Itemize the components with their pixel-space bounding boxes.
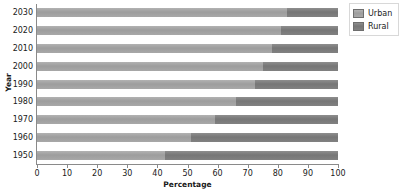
x-tick-label: 20 [85, 169, 109, 178]
y-tick-label: 1970 [3, 115, 33, 124]
x-tick-label: 0 [25, 169, 49, 178]
x-tick-mark [67, 165, 68, 168]
x-tick-label: 50 [176, 169, 200, 178]
x-tick-label: 30 [115, 169, 139, 178]
bar-segment-urban [37, 97, 236, 106]
x-tick-mark [308, 165, 309, 168]
x-tick-mark [37, 165, 38, 168]
x-axis-title: Percentage [37, 180, 338, 189]
legend-label-rural: Rural [368, 22, 389, 31]
x-tick-label: 100 [326, 169, 350, 178]
bar-segment-rural [255, 80, 338, 89]
bar-segment-rural [215, 115, 338, 124]
x-tick-mark [97, 165, 98, 168]
y-tick-label: 1990 [3, 80, 33, 89]
y-tick-label: 2000 [3, 62, 33, 71]
x-tick-label: 70 [236, 169, 260, 178]
bar-segment-urban [37, 26, 281, 35]
x-tick-mark [218, 165, 219, 168]
stacked-bar-chart: Year 20302020201020001990198019701960195… [0, 0, 401, 192]
bar-row [37, 151, 338, 160]
bar-row [37, 115, 338, 124]
bar-segment-urban [37, 151, 165, 160]
bar-row [37, 97, 338, 106]
bar-segment-rural [263, 62, 338, 71]
legend-item-rural: Rural [353, 20, 398, 33]
x-tick-mark [188, 165, 189, 168]
x-tick-mark [157, 165, 158, 168]
x-tick-label: 80 [266, 169, 290, 178]
y-axis-tick-labels: 203020202010200019901980197019601950 [0, 4, 33, 164]
bar-segment-rural [165, 151, 338, 160]
bar-row [37, 8, 338, 17]
y-tick-label: 1960 [3, 133, 33, 142]
legend-swatch-rural-icon [353, 22, 364, 31]
x-tick-label: 60 [206, 169, 230, 178]
legend-swatch-urban-icon [353, 9, 364, 18]
bar-segment-urban [37, 44, 272, 53]
bar-segment-urban [37, 62, 263, 71]
bar-row [37, 80, 338, 89]
x-tick-label: 90 [296, 169, 320, 178]
y-tick-label: 1980 [3, 97, 33, 106]
bar-row [37, 133, 338, 142]
plot-area [37, 4, 338, 164]
bar-segment-urban [37, 115, 215, 124]
bar-row [37, 62, 338, 71]
y-tick-label: 2010 [3, 44, 33, 53]
bar-segment-urban [37, 8, 287, 17]
x-tick-mark [248, 165, 249, 168]
bar-row [37, 44, 338, 53]
y-tick-label: 2020 [3, 26, 33, 35]
y-tick-label: 1950 [3, 151, 33, 160]
legend: Urban Rural [349, 3, 399, 36]
x-tick-mark [127, 165, 128, 168]
bar-row [37, 26, 338, 35]
x-tick-mark [278, 165, 279, 168]
x-tick-label: 40 [145, 169, 169, 178]
x-tick-label: 10 [55, 169, 79, 178]
bar-segment-rural [281, 26, 338, 35]
bar-segment-rural [191, 133, 338, 142]
bar-segment-rural [272, 44, 338, 53]
bar-segment-urban [37, 133, 191, 142]
legend-label-urban: Urban [368, 9, 392, 18]
bar-segment-urban [37, 80, 255, 89]
y-tick-label: 2030 [3, 8, 33, 17]
bar-segment-rural [236, 97, 338, 106]
bar-segment-rural [287, 8, 338, 17]
x-tick-mark [338, 165, 339, 168]
legend-item-urban: Urban [353, 7, 398, 20]
